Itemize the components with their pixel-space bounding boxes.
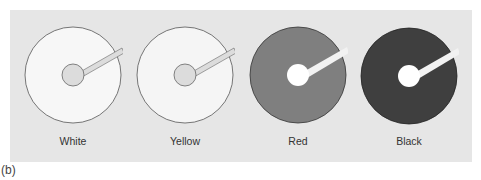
- slotted-disk-icon: [135, 25, 235, 125]
- slotted-disk-icon: [248, 25, 348, 125]
- label-black: Black: [359, 135, 459, 147]
- disk-red: [248, 25, 348, 125]
- label-white: White: [23, 135, 123, 147]
- disk-black: [359, 26, 459, 126]
- disk-white: [23, 25, 123, 125]
- label-yellow: Yellow: [135, 135, 235, 147]
- disk-yellow: [135, 25, 235, 125]
- figure-caption: (b): [1, 163, 16, 177]
- slotted-disk-icon: [359, 26, 459, 126]
- slotted-disk-icon: [23, 25, 123, 125]
- label-red: Red: [248, 135, 348, 147]
